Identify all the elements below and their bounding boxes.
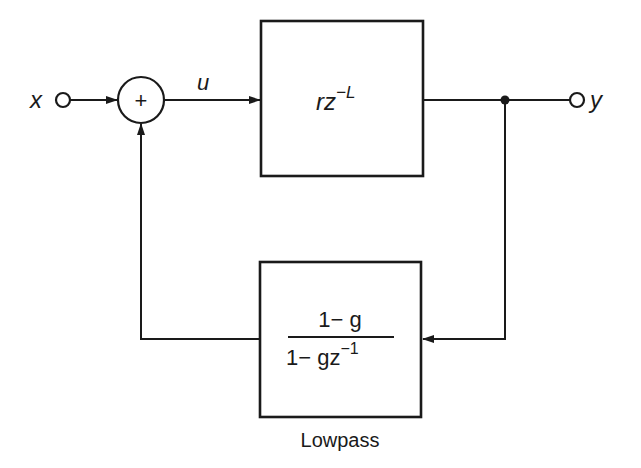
lowpass-numerator: 1− g bbox=[318, 307, 361, 332]
numerator-text: 1− g bbox=[318, 307, 361, 332]
output-label: y bbox=[588, 86, 604, 113]
summer-plus-symbol: + bbox=[135, 88, 148, 113]
block-diagram: x + u rz−L y 1− g 1− gz−1 Lowpass bbox=[0, 0, 641, 468]
output-terminal-icon bbox=[570, 93, 584, 107]
delay-exponent: −L bbox=[336, 83, 355, 102]
denominator-exponent: −1 bbox=[340, 340, 358, 357]
feedback-to-lowpass-arrow bbox=[423, 100, 505, 339]
lowpass-block: 1− g 1− gz−1 Lowpass bbox=[260, 262, 421, 451]
lowpass-caption: Lowpass bbox=[301, 429, 380, 451]
denominator-base: 1− gz bbox=[286, 345, 340, 370]
delay-block: rz−L bbox=[261, 21, 423, 176]
delay-base: rz bbox=[316, 88, 336, 115]
summing-junction: + bbox=[118, 77, 164, 123]
feedback-to-summer-arrow bbox=[141, 124, 260, 339]
input-label: x bbox=[29, 86, 43, 113]
input-terminal-icon bbox=[56, 93, 70, 107]
u-label: u bbox=[197, 70, 209, 95]
